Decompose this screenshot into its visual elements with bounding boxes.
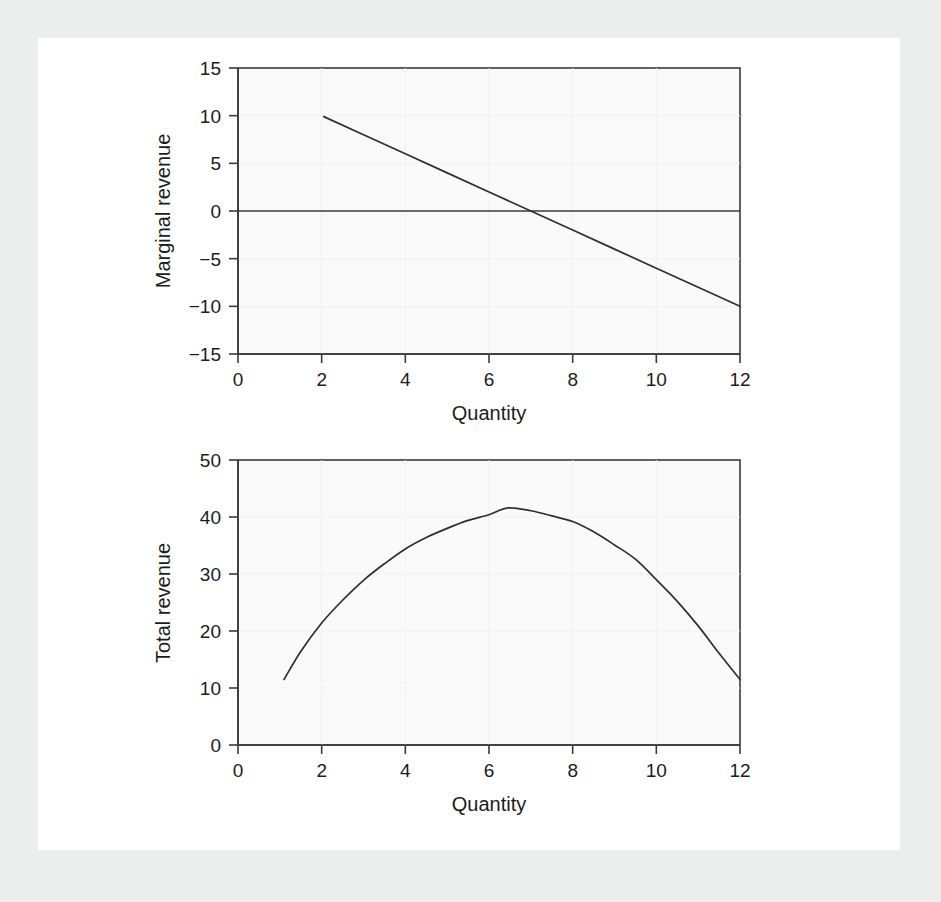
x-tick-label: 2 <box>316 369 327 390</box>
chart-marginal-revenue: 15 10 5 0 −5 −10 −15 0 2 4 6 8 10 <box>38 38 900 438</box>
x-tick-label: 6 <box>484 369 495 390</box>
total-revenue-plot: 50 40 30 20 10 0 0 2 4 6 8 10 12 Q <box>38 428 900 850</box>
y-axis-ticks <box>229 68 238 354</box>
x-tick-label: 10 <box>646 760 667 781</box>
x-tick-label: 12 <box>729 369 750 390</box>
x-tick-label: 6 <box>484 760 495 781</box>
x-axis-ticks <box>238 745 740 754</box>
x-tick-label: 8 <box>567 369 578 390</box>
x-tick-label: 8 <box>567 760 578 781</box>
x-axis-title: Quantity <box>452 402 526 424</box>
x-axis-title: Quantity <box>452 793 526 815</box>
y-tick-label: 40 <box>200 507 221 528</box>
y-tick-label: 30 <box>200 564 221 585</box>
x-tick-label: 10 <box>646 369 667 390</box>
y-tick-label: −15 <box>189 344 221 365</box>
y-tick-label: 0 <box>210 735 221 756</box>
x-tick-label: 0 <box>233 369 244 390</box>
x-tick-label: 12 <box>729 760 750 781</box>
figure-panel: 15 10 5 0 −5 −10 −15 0 2 4 6 8 10 <box>38 38 900 850</box>
y-tick-label: 0 <box>210 201 221 222</box>
y-tick-label: 15 <box>200 58 221 79</box>
y-tick-label: 5 <box>210 153 221 174</box>
x-tick-label: 4 <box>400 760 411 781</box>
marginal-revenue-plot: 15 10 5 0 −5 −10 −15 0 2 4 6 8 10 <box>38 38 900 438</box>
x-tick-label: 2 <box>316 760 327 781</box>
y-tick-label: 50 <box>200 450 221 471</box>
y-tick-label: 10 <box>200 678 221 699</box>
x-tick-label: 4 <box>400 369 411 390</box>
x-tick-label: 0 <box>233 760 244 781</box>
y-tick-label: −10 <box>189 296 221 317</box>
chart-total-revenue: 50 40 30 20 10 0 0 2 4 6 8 10 12 Q <box>38 428 900 850</box>
y-axis-title: Total revenue <box>152 543 174 663</box>
y-axis-ticks <box>229 460 238 745</box>
x-axis-ticks <box>238 354 740 363</box>
y-tick-label: 20 <box>200 621 221 642</box>
y-axis-title: Marginal revenue <box>152 134 174 289</box>
y-tick-label: 10 <box>200 106 221 127</box>
y-tick-label: −5 <box>199 249 221 270</box>
